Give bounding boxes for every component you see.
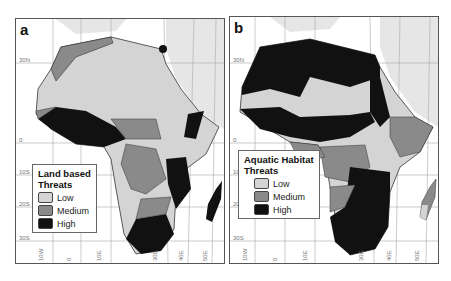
legend-item-high: High <box>254 204 314 215</box>
legend-title: Aquatic Habitat <box>244 154 314 165</box>
lat-label: 0 <box>19 137 22 143</box>
lon-label: 40E <box>386 250 392 261</box>
lon-label: 10E <box>302 250 308 261</box>
lon-label: 50E <box>202 250 208 261</box>
map-panel-b: b 30N 0 10S 20S 30S 10W 0 10E 30E 40E 50… <box>229 16 439 264</box>
lat-label: 20S <box>19 201 30 207</box>
legend-title: Threats <box>38 179 91 190</box>
legend-item-high: High <box>38 218 91 229</box>
lat-label: 10S <box>19 169 30 175</box>
lon-label: 10W <box>38 249 44 261</box>
legend-title: Land based <box>38 168 91 179</box>
lon-label: 0 <box>66 258 72 261</box>
panel-label-a: a <box>20 21 28 38</box>
legend-item-low: Low <box>38 192 91 203</box>
legend-land-threats: Land based Threats Low Medium High <box>32 164 97 233</box>
lon-label: 50E <box>414 250 420 261</box>
africa-map-aquatic-threats <box>230 17 438 263</box>
lon-label: 0 <box>272 258 278 261</box>
lon-label: 30E <box>358 250 364 261</box>
legend-item-low: Low <box>254 178 314 189</box>
lat-label: 0 <box>233 137 236 143</box>
lon-label: 10E <box>96 250 102 261</box>
lat-label: 30S <box>19 235 30 241</box>
lat-label: 30N <box>233 57 244 63</box>
legend-item-medium: Medium <box>254 191 314 202</box>
lon-label: 10W <box>242 249 248 261</box>
lat-label: 30N <box>19 57 30 63</box>
legend-item-medium: Medium <box>38 205 91 216</box>
lon-label: 30E <box>152 250 158 261</box>
legend-aquatic-threats: Aquatic Habitat Threats Low Medium High <box>238 150 320 219</box>
lon-label: 40E <box>178 250 184 261</box>
panel-label-b: b <box>234 19 243 36</box>
legend-title: Threats <box>244 165 314 176</box>
lat-label: 30S <box>233 235 244 241</box>
map-panel-a: a 30N 0 10S 20S 30S 10W 0 10E 30E 40E 50… <box>15 18 225 264</box>
